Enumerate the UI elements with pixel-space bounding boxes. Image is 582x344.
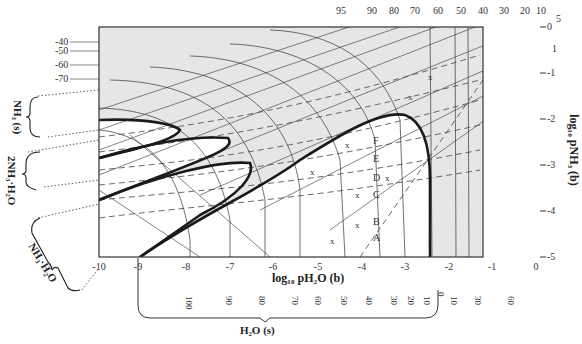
- bottom-label: 10: [449, 296, 459, 306]
- left-label: -70: [55, 73, 68, 84]
- y-tick-label: -1: [547, 67, 555, 78]
- bottom-label: 60: [313, 296, 323, 306]
- x-tick-label: -4: [358, 261, 366, 272]
- top-label: 30: [499, 5, 509, 16]
- bottom-label: 10: [422, 296, 432, 306]
- x-tick-label: -10: [92, 261, 105, 272]
- left-braces: [22, 97, 80, 291]
- trajectory-label-c: C: [373, 189, 380, 200]
- y-tick-label: -4: [547, 205, 555, 216]
- right-top-label: 1: [552, 43, 557, 54]
- top-labels: 95 90 80 70 60 50 40 30 20 10: [336, 5, 546, 16]
- left-label: -60: [55, 59, 68, 70]
- y-tick-label: -3: [547, 159, 555, 170]
- top-label: 50: [456, 5, 466, 16]
- bottom-label: 100: [184, 296, 194, 310]
- marker: x: [355, 220, 360, 230]
- bottom-label: 70: [290, 296, 300, 306]
- left-labels: -40 -50 -60 -70: [55, 36, 68, 84]
- bottom-label: 40: [364, 296, 374, 306]
- y-tick-label: 0: [547, 21, 552, 32]
- top-label: 95: [336, 5, 346, 16]
- left-leader-lines: [70, 42, 99, 79]
- top-label: 70: [410, 5, 420, 16]
- trajectory-label-e: E: [373, 153, 379, 164]
- x-axis-title: log₁₀ pH₂O (b): [272, 271, 344, 285]
- y-axis-ticks: [540, 27, 546, 257]
- top-label: 10: [536, 5, 546, 16]
- y-axis-title: log₁₀ pNH₃ (b): [567, 114, 581, 185]
- marker: x: [385, 173, 390, 183]
- x-tick-label: -8: [182, 261, 190, 272]
- bottom-label: 20: [406, 296, 416, 306]
- marker: x: [355, 190, 360, 200]
- x-tick-label: -7: [226, 261, 234, 272]
- x-tick-label: -1: [488, 261, 496, 272]
- marker: x: [408, 92, 413, 102]
- trajectory-label-d: D: [373, 172, 380, 183]
- top-label: 40: [478, 5, 488, 16]
- bottom-label: 60: [506, 296, 516, 306]
- left-label: -50: [55, 45, 68, 56]
- bottom-label: 50: [339, 296, 349, 306]
- x-tick-label: -2: [445, 261, 453, 272]
- top-label: 20: [520, 5, 530, 16]
- marker: x: [428, 72, 433, 82]
- phase-label-monohydrate: NH₃·H₂O: [26, 241, 60, 285]
- trajectory-label-f: F: [373, 135, 379, 146]
- bottom-label: 80: [257, 296, 267, 306]
- right-top-labels: 5 1: [552, 13, 561, 54]
- top-label: 90: [367, 5, 377, 16]
- bottom-rotated-labels: 100 90 80 70 60 50 40 30 20 10 0 10 30 6…: [184, 292, 516, 310]
- y-tick-label: -2: [547, 113, 555, 124]
- x-tick-label: -3: [401, 261, 409, 272]
- marker: x: [330, 236, 335, 246]
- bottom-label: 30: [473, 296, 483, 306]
- phase-label-ice: H₂O (s): [240, 324, 275, 337]
- phase-diagram: -40 -50 -60 -70 95 90 80 70 60 50 40 30 …: [0, 0, 582, 344]
- phase-label-nh3-solid: NH₃ (s): [11, 100, 24, 134]
- bottom-label: 90: [224, 296, 234, 306]
- trajectory-label-b: B: [373, 216, 380, 227]
- right-top-label: 5: [556, 13, 561, 24]
- x-tick-label: 0: [534, 261, 539, 272]
- y-axis-tick-labels: 0 -1 -2 -3 -4 -5: [547, 21, 555, 262]
- trajectory-label-a: A: [373, 232, 381, 243]
- top-label: 80: [389, 5, 399, 16]
- marker: x: [345, 140, 350, 150]
- phase-label-dihydrate: 2NH₃·H₂O: [6, 156, 18, 206]
- y-tick-label: -5: [547, 251, 555, 262]
- top-label: 60: [433, 5, 443, 16]
- marker: x: [310, 167, 315, 177]
- bottom-label: 30: [389, 296, 399, 306]
